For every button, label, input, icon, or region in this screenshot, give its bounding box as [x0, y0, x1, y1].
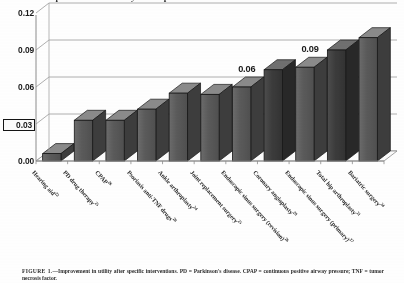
- bar-value-label: 0.09: [301, 44, 318, 54]
- figure-number: FIGURE 1.: [22, 268, 52, 274]
- x-axis-label-reference: 22: [54, 191, 60, 197]
- bar-series: [43, 28, 391, 161]
- x-axis-category-label: Hearing aid22: [31, 168, 60, 199]
- bar: [169, 83, 200, 161]
- x-axis-label-reference: 21: [356, 210, 362, 216]
- x-axis-label-reference: 24: [379, 201, 385, 207]
- x-axis-label-reference: 26: [284, 236, 290, 242]
- bar: [296, 57, 327, 161]
- y-axis-tick-0-12: 0.12: [4, 8, 34, 18]
- x-axis-label-text: PD drug therapy: [62, 169, 97, 206]
- x-axis-category-label: Joint replacement surgery25: [189, 168, 243, 227]
- y-axis-tick-0-03: 0.03: [3, 119, 35, 131]
- figure-caption: FIGURE 1.—Improvement in utility after s…: [22, 268, 384, 282]
- x-axis-label-text: Endoscopic sinus surgery (primary): [284, 169, 351, 243]
- bar: [138, 99, 169, 161]
- x-axis-category-label: CPAP26: [94, 168, 113, 188]
- x-axis-label-text: Hearing aid: [31, 169, 57, 197]
- bar: [201, 84, 232, 161]
- x-axis-label-reference: 25: [237, 219, 243, 225]
- figure-caption-text: —Improvement in utility after specific i…: [22, 268, 384, 281]
- bar: [106, 110, 137, 161]
- x-axis-label-text: Bariatric surgery: [347, 169, 382, 207]
- bar: [264, 60, 295, 161]
- x-axis-label-text: Endoscopic sinus surgery (revision): [220, 169, 287, 242]
- x-axis-label-reference: 27: [348, 237, 354, 243]
- bar-value-label: 0.06: [238, 64, 255, 74]
- bar: [74, 110, 105, 161]
- y-axis-tick-0-09: 0.09: [4, 45, 34, 55]
- bar: [232, 77, 263, 161]
- bar: [359, 28, 390, 161]
- y-axis-tick-0-00: 0.00: [4, 156, 34, 166]
- x-axis-category-label: Endoscopic sinus surgery (revision)26: [220, 168, 290, 245]
- bar: [327, 40, 358, 161]
- figure-root: Improvement in utility after specific in…: [0, 0, 404, 283]
- x-axis-category-labels: Hearing aid22PD drug therapy25CPAP26Psor…: [0, 168, 404, 260]
- x-axis-label-reference: 24: [192, 205, 198, 211]
- x-axis-label-reference: 26: [107, 180, 113, 186]
- x-axis-label-reference: 25: [94, 201, 100, 207]
- x-axis-label-reference: 28: [292, 210, 298, 216]
- y-axis-tick-labels: 0.000.030.060.090.12: [2, 0, 34, 170]
- y-axis-tick-0-06: 0.06: [4, 82, 34, 92]
